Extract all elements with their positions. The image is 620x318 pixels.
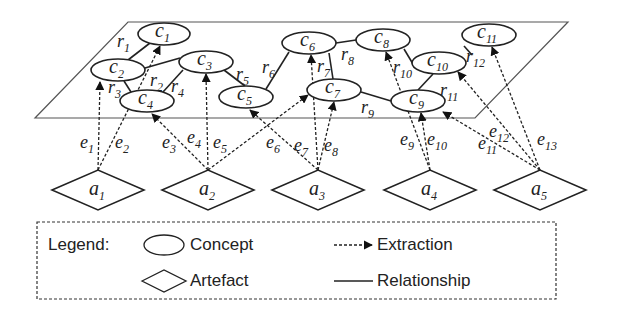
relationship-label-r6: r6 <box>262 57 275 81</box>
concept-c9: c9 <box>391 86 445 112</box>
extraction-label-e9: e9 <box>400 129 414 153</box>
legend: Legend: Concept Artefact Extraction Rela… <box>37 222 556 299</box>
extraction-label-e10: e10 <box>427 129 447 153</box>
extraction-e12 <box>458 72 540 170</box>
relationship-label-r4: r4 <box>171 76 184 100</box>
relationship-r1 <box>128 43 150 60</box>
extraction-e4 <box>206 74 208 170</box>
extraction-e13 <box>492 47 540 170</box>
relationship-r11 <box>418 74 433 90</box>
relationship-label-r8: r8 <box>341 44 354 68</box>
concept-c1: c1 <box>138 19 190 45</box>
legend-extraction-label: Extraction <box>377 235 453 254</box>
artefact-a2: a2 <box>162 170 254 210</box>
artefact-a3: a3 <box>272 170 364 210</box>
concept-c6: c6 <box>282 28 336 54</box>
concept-c11: c11 <box>462 20 516 46</box>
legend-box <box>37 222 556 299</box>
concept-c2: c2 <box>91 55 145 81</box>
extraction-e1 <box>98 82 100 170</box>
concept-c3: c3 <box>179 47 233 73</box>
relationship-r3 <box>124 81 131 92</box>
legend-artefact-icon <box>142 270 186 292</box>
legend-artefact-label: Artefact <box>190 271 249 290</box>
artefact-a1: a1 <box>52 170 144 210</box>
relationship-label-r1: r1 <box>117 31 130 55</box>
concept-c5: c5 <box>219 82 273 108</box>
extraction-label-e1: e1 <box>80 132 94 156</box>
concept-c10: c10 <box>412 48 466 74</box>
knowledge-graph-diagram: r1r2r3r4r5r6r7r8r9r10r11r12 e1e2e3e4e5e6… <box>0 0 620 318</box>
concept-c7: c7 <box>307 75 361 101</box>
concept-c8: c8 <box>356 25 410 51</box>
relationship-label-r10: r10 <box>393 57 412 81</box>
legend-concept-label: Concept <box>190 235 254 254</box>
extraction-label-e6: e6 <box>266 132 280 156</box>
legend-title: Legend: <box>48 235 109 254</box>
extraction-label-e7: e7 <box>294 135 309 159</box>
extraction-label-e4: e4 <box>187 127 201 151</box>
extraction-label-e3: e3 <box>162 132 176 156</box>
artefact-a5: a5 <box>494 170 586 210</box>
extraction-label-e8: e8 <box>324 135 338 159</box>
extraction-label-e5: e5 <box>213 132 227 156</box>
extraction-label-e13: e13 <box>537 129 557 153</box>
artefacts-layer: a1a2a3a4a5 <box>52 170 586 210</box>
relationship-label-r12: r12 <box>466 46 485 70</box>
legend-concept-icon <box>144 235 184 255</box>
extraction-label-e2: e2 <box>115 132 129 156</box>
artefact-a4: a4 <box>384 170 476 210</box>
legend-relationship-label: Relationship <box>377 271 471 290</box>
relationship-r8 <box>336 40 356 43</box>
extraction-e6 <box>250 110 318 170</box>
